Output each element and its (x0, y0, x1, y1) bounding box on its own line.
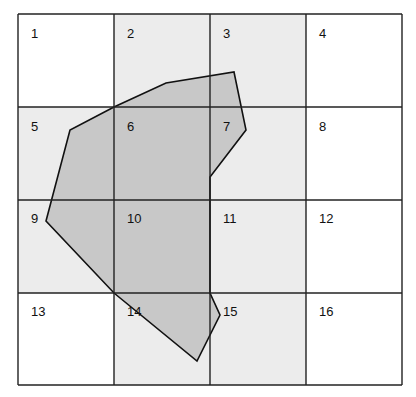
cell-label-14: 14 (127, 304, 141, 319)
cell-label-5: 5 (31, 119, 38, 134)
cell-label-2: 2 (127, 26, 134, 41)
grid-diagram (0, 0, 416, 397)
cell-label-15: 15 (223, 304, 237, 319)
cell-label-10: 10 (127, 211, 141, 226)
cell-label-12: 12 (319, 211, 333, 226)
cell-label-6: 6 (127, 119, 134, 134)
cell-label-11: 11 (223, 211, 237, 226)
cell-label-16: 16 (319, 304, 333, 319)
cell-label-3: 3 (223, 26, 230, 41)
cell-label-9: 9 (31, 211, 38, 226)
cell-label-7: 7 (223, 119, 230, 134)
cell-label-1: 1 (31, 26, 38, 41)
cell-label-13: 13 (31, 304, 45, 319)
cell-label-4: 4 (319, 26, 326, 41)
cell-label-8: 8 (319, 119, 326, 134)
